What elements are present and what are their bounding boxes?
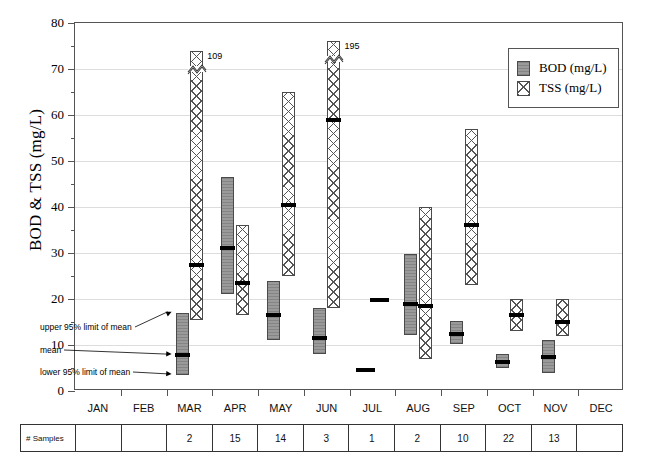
y-axis-tick-label: 80 <box>34 15 64 31</box>
ci-bar-bod-may <box>267 281 280 341</box>
sample-count-feb <box>122 425 168 451</box>
y-axis-tick <box>68 23 75 24</box>
sample-count-dec <box>577 425 622 451</box>
x-axis-label-jun: JUN <box>316 402 337 414</box>
mean-marker-bod-aug <box>403 302 418 306</box>
y-axis-tick-label: 0 <box>34 383 64 399</box>
ci-bar-bod-apr <box>221 177 234 294</box>
legend-label: BOD (mg/L) <box>539 60 607 76</box>
x-axis-tick <box>441 389 442 396</box>
sample-count-mar: 2 <box>167 425 213 451</box>
ci-bar-tss-sep <box>465 129 478 285</box>
gridline <box>75 345 622 346</box>
x-axis-tick <box>258 389 259 396</box>
mean-marker-tss-nov <box>555 320 570 324</box>
annotation-label-2: lower 95% limit of mean <box>40 367 130 377</box>
x-axis-tick <box>533 389 534 396</box>
gridline <box>75 161 622 162</box>
y-axis-minor-tick <box>71 230 75 231</box>
axis-break-symbol-mar <box>186 62 207 76</box>
sample-count-jul: 1 <box>349 425 395 451</box>
gridline <box>75 207 622 208</box>
sample-count-aug: 2 <box>395 425 441 451</box>
y-axis-minor-tick <box>71 46 75 47</box>
ci-bar-bod-aug <box>404 254 417 335</box>
x-axis-label-jan: JAN <box>87 402 108 414</box>
ci-bar-tss-nov <box>556 299 569 336</box>
ci-bar-bod-jun <box>313 308 326 354</box>
x-axis-tick <box>121 389 122 396</box>
y-axis-tick <box>68 299 75 300</box>
chart-figure: BOD & TSS (mg/L) 01020304050607080JANFEB… <box>0 0 645 474</box>
mean-marker-bod-sep <box>449 332 464 336</box>
sample-count-nov: 13 <box>532 425 578 451</box>
axis-break-symbol-jun <box>323 52 344 66</box>
y-axis-tick-label: 40 <box>34 199 64 215</box>
gridline <box>75 253 622 254</box>
gridline <box>75 115 622 116</box>
chart-legend: BOD (mg/L)TSS (mg/L) <box>508 48 619 108</box>
y-axis-minor-tick <box>71 276 75 277</box>
y-axis-tick-label: 30 <box>34 245 64 261</box>
legend-item-bod: BOD (mg/L) <box>517 60 607 76</box>
ci-bar-tss-aug <box>419 207 432 359</box>
x-axis-tick <box>304 389 305 396</box>
y-axis-minor-tick <box>71 92 75 93</box>
x-axis-tick <box>350 389 351 396</box>
y-axis-tick <box>68 207 75 208</box>
annotation-label-1: mean <box>40 345 61 355</box>
x-axis-label-dec: DEC <box>590 402 613 414</box>
x-axis-label-may: MAY <box>269 402 292 414</box>
mean-marker-tss-aug <box>418 304 433 308</box>
y-axis-minor-tick <box>71 184 75 185</box>
y-axis-tick <box>68 253 75 254</box>
y-axis-tick <box>68 391 75 392</box>
ci-bar-tss-apr <box>236 225 249 315</box>
y-axis-minor-tick <box>71 138 75 139</box>
axis-break-value-label-mar: 109 <box>207 51 222 61</box>
mean-marker-tss-sep <box>464 223 479 227</box>
y-axis-tick <box>68 345 75 346</box>
y-axis-tick-label: 60 <box>34 107 64 123</box>
x-axis-label-apr: APR <box>224 402 247 414</box>
gridline <box>75 299 622 300</box>
mean-marker-bod-oct <box>495 360 510 364</box>
mean-marker-tss-may <box>281 203 296 207</box>
x-axis-tick <box>212 389 213 396</box>
mean-marker-bod-may <box>266 313 281 317</box>
x-axis-label-jul: JUL <box>363 402 383 414</box>
y-axis-tick-label: 70 <box>34 61 64 77</box>
x-axis-label-oct: OCT <box>498 402 521 414</box>
mean-marker-bod-nov <box>541 355 556 359</box>
sample-count-jun: 3 <box>304 425 350 451</box>
legend-swatch-bod-icon <box>517 61 530 76</box>
x-axis-tick <box>395 389 396 396</box>
legend-item-tss: TSS (mg/L) <box>517 80 607 96</box>
sample-table-row-header: # Samples <box>21 425 76 451</box>
x-axis-tick <box>167 389 168 396</box>
mean-marker-tss-apr <box>235 281 250 285</box>
mean-marker-bod-apr <box>220 246 235 250</box>
y-axis-tick-label: 20 <box>34 291 64 307</box>
mean-marker-tss-mar <box>189 263 204 267</box>
x-axis-label-sep: SEP <box>453 402 475 414</box>
y-axis-tick <box>68 69 75 70</box>
ci-bar-tss-jun <box>327 41 340 308</box>
mean-marker-tss-jul <box>370 298 389 302</box>
ci-bar-tss-mar <box>190 51 203 320</box>
y-axis-tick <box>68 115 75 116</box>
x-axis-label-nov: NOV <box>543 402 567 414</box>
x-axis-label-mar: MAR <box>177 402 201 414</box>
x-axis-tick <box>487 389 488 396</box>
annotation-label-0: upper 95% limit of mean <box>40 322 132 332</box>
sample-count-sep: 10 <box>441 425 487 451</box>
x-axis-label-feb: FEB <box>133 402 154 414</box>
ci-bar-bod-mar <box>176 313 189 375</box>
y-axis-tick <box>68 161 75 162</box>
x-axis-label-aug: AUG <box>406 402 430 414</box>
sample-count-jan <box>76 425 122 451</box>
mean-marker-bod-mar <box>175 353 190 357</box>
sample-count-apr: 15 <box>213 425 259 451</box>
mean-marker-tss-jun <box>326 118 341 122</box>
x-axis-tick <box>578 389 579 396</box>
